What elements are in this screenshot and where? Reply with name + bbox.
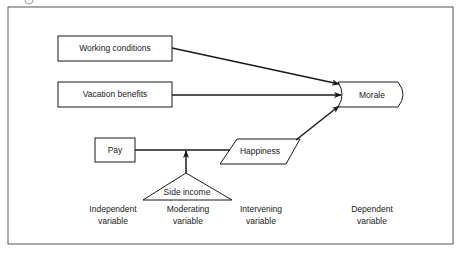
caption-line-2: variable: [351, 215, 393, 227]
vacation-benefits-label: Vacation benefits: [83, 89, 148, 99]
moderating-variable-caption: Moderating variable: [167, 203, 210, 227]
caption-line-1: Independent: [89, 203, 136, 215]
caption-line-2: variable: [167, 215, 210, 227]
cropped-caption-fragment: [25, 0, 33, 4]
caption-line-1: Moderating: [167, 203, 210, 215]
side-income-label: Side income: [164, 187, 211, 197]
intervening-variable-caption: Intervening variable: [240, 203, 282, 227]
happiness-label: Happiness: [240, 146, 280, 156]
pay-label: Pay: [108, 145, 123, 155]
caption-line-1: Dependent: [351, 203, 393, 215]
caption-line-2: variable: [89, 215, 136, 227]
dependent-variable-caption: Dependent variable: [351, 203, 393, 227]
edge-happiness-to-morale: [296, 106, 339, 140]
working-conditions-label: Working conditions: [79, 43, 151, 53]
caption-line-1: Intervening: [240, 203, 282, 215]
caption-line-2: variable: [240, 215, 282, 227]
edge-working-conditions-to-morale: [172, 48, 339, 84]
morale-label: Morale: [359, 90, 385, 100]
independent-variable-caption: Independent variable: [89, 203, 136, 227]
